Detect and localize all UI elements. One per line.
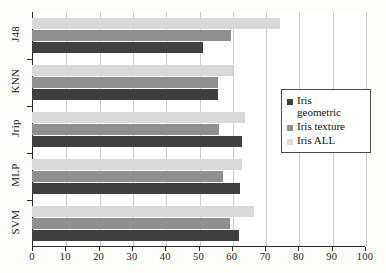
legend-label: Iris ALL (297, 135, 335, 147)
light-gray-swatch-icon (287, 139, 293, 145)
bar-group-svm (32, 200, 365, 247)
x-axis-tick-label: 20 (84, 251, 114, 262)
legend-label: Iris geometric (297, 95, 341, 119)
legend-item-iris-texture: Iris texture (287, 121, 366, 133)
y-axis-tick (27, 153, 32, 154)
bar-group-mlp (32, 153, 365, 200)
bar-mlp-iris-all (32, 159, 242, 170)
bar-jrip-iris-texture (32, 124, 219, 135)
y-axis-tick (27, 106, 32, 107)
bar-j48-iris-geometric (32, 42, 203, 53)
medium-gray-swatch-icon (287, 125, 293, 131)
x-axis-tick-label: 80 (283, 251, 313, 262)
bar-knn-iris-texture (32, 77, 218, 88)
bar-jrip-iris-geometric (32, 136, 242, 147)
bar-jrip-iris-all (32, 112, 245, 123)
x-axis-tick-label: 0 (17, 251, 47, 262)
legend-item-iris-geometric: Iris geometric (287, 95, 366, 119)
y-axis-tick (27, 200, 32, 201)
legend-label: Iris texture (297, 121, 345, 133)
x-axis-tick-label: 70 (250, 251, 280, 262)
bar-svm-iris-geometric (32, 230, 239, 241)
y-axis-tick (27, 59, 32, 60)
bar-svm-iris-texture (32, 218, 230, 229)
bar-mlp-iris-texture (32, 171, 223, 182)
x-axis-tick-label: 50 (184, 251, 214, 262)
bar-j48-iris-texture (32, 30, 231, 41)
x-axis-tick-label: 30 (117, 251, 147, 262)
dark-gray-swatch-icon (287, 99, 293, 105)
y-axis-label-svm: SVM (8, 198, 20, 245)
bar-j48-iris-all (32, 18, 280, 29)
legend-item-iris-all: Iris ALL (287, 135, 366, 147)
y-axis-label-j48: J48 (8, 10, 20, 57)
x-axis: 0102030405060708090100 (32, 247, 365, 269)
bar-chart: J48KNNJripMLPSVM 0102030405060708090100 … (0, 0, 386, 273)
x-axis-tick-label: 40 (150, 251, 180, 262)
bar-knn-iris-geometric (32, 89, 218, 100)
y-axis-label-mlp: MLP (8, 151, 20, 198)
y-axis-ticks (26, 12, 33, 247)
x-axis-tick-label: 90 (317, 251, 347, 262)
bar-knn-iris-all (32, 65, 233, 76)
x-axis-tick-label: 10 (50, 251, 80, 262)
y-axis-label-knn: KNN (8, 57, 20, 104)
bar-group-j48 (32, 12, 365, 59)
x-axis-tick-label: 60 (217, 251, 247, 262)
bar-svm-iris-all (32, 206, 254, 217)
bar-mlp-iris-geometric (32, 183, 240, 194)
chart-legend: Iris geometric Iris texture Iris ALL (281, 89, 371, 153)
y-axis-label-jrip: Jrip (8, 104, 20, 151)
x-axis-tick-label: 100 (350, 251, 380, 262)
